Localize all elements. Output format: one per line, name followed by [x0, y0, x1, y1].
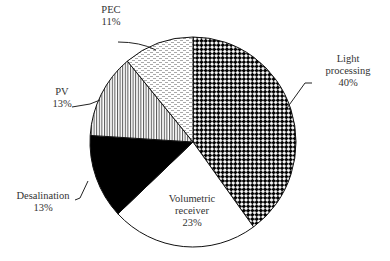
label-pec-pct: 11%	[96, 16, 126, 28]
label-pec: PEC 11%	[96, 4, 126, 28]
label-pv: PV 13%	[50, 86, 74, 110]
label-vol-name2: receiver	[162, 205, 222, 217]
label-vol-name1: Volumetric	[162, 193, 222, 205]
leader-desal	[75, 181, 88, 200]
label-light-pct: 40%	[318, 77, 378, 89]
label-pec-name: PEC	[96, 4, 126, 16]
label-volumetric: Volumetric receiver 23%	[162, 193, 222, 229]
label-pv-pct: 13%	[50, 98, 74, 110]
label-light: Light processing 40%	[318, 53, 378, 89]
label-desal-name: Desalination	[12, 190, 74, 202]
label-desalination: Desalination 13%	[12, 190, 74, 214]
label-pv-name: PV	[50, 86, 74, 98]
label-vol-pct: 23%	[162, 217, 222, 229]
label-desal-pct: 13%	[12, 202, 74, 214]
label-light-name2: processing	[318, 65, 378, 77]
label-light-name1: Light	[318, 53, 378, 65]
leader-light	[287, 83, 312, 108]
